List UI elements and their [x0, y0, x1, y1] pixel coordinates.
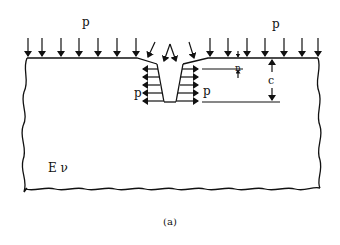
crack-pressure-label-right: p — [203, 84, 211, 98]
crack-pressure-arrows-right — [177, 69, 198, 101]
dimension-c-label: c — [268, 74, 274, 87]
surface-pressure-label-right: p — [272, 17, 280, 31]
material-label: E ν — [48, 161, 68, 175]
left-wavy-edge — [22, 58, 27, 192]
crack-pressure-arrows-left — [143, 69, 163, 101]
bottom-wavy-edge — [25, 188, 320, 190]
crack-face-right — [176, 64, 183, 102]
crack-pressure-diagram: p p p p n c E ν (a) — [0, 0, 340, 245]
surface-right — [183, 58, 318, 64]
dimension-n-label: n — [235, 63, 241, 73]
right-wavy-edge — [317, 58, 321, 188]
surface-pressure-label-left: p — [82, 15, 90, 29]
surface-left — [27, 58, 157, 64]
crack-face-left — [157, 64, 164, 102]
figure-caption: (a) — [163, 216, 177, 227]
crack-pressure-label-left: p — [134, 86, 142, 100]
